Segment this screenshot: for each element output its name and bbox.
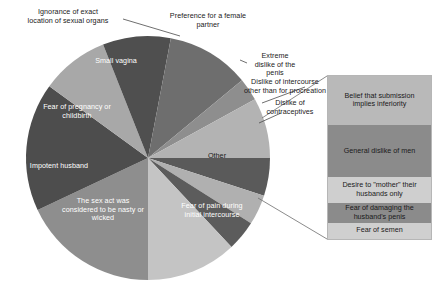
leader-line-other-bottom [258,198,327,239]
other-breakdown-segment[interactable]: General dislike of men [328,125,431,177]
pie-label-fear-pregnancy: Fear of pregnancy or childbirth [28,103,126,120]
pie-chart-figure: Ignorance of exact location of sexual or… [0,0,435,295]
other-breakdown-box: Belief that submission implies inferiori… [327,75,432,240]
other-breakdown-segment[interactable]: Fear of damaging the husband's penis [328,203,431,223]
pie-label-extreme-dislike-penis: Extreme dislike of the penis [244,52,306,78]
pie-label-dislike-intercourse: Dislike of intercourse other than for pr… [240,78,330,95]
other-breakdown-segment[interactable]: Fear of semen [328,223,431,239]
other-breakdown-segment[interactable]: Belief that submission implies inferiori… [328,76,431,125]
pie-label-preference-female: Preference for a female partner [156,12,260,29]
pie-label-other: Other [196,152,238,161]
pie-label-fear-pain: Fear of pain during initial intercourse [164,202,260,219]
pie-label-impotent-husband: Impotent husband [16,162,102,171]
other-breakdown-segment[interactable]: Desire to "mother" their husbands only [328,177,431,203]
pie-label-ignorance: Ignorance of exact location of sexual or… [6,8,130,25]
pie-label-sex-act-nasty: The sex act was considered to be nasty o… [48,197,158,223]
pie-label-small-vagina: Small vagina [76,57,156,66]
pie-label-dislike-contraceptives: Dislike of contraceptives [256,99,324,116]
